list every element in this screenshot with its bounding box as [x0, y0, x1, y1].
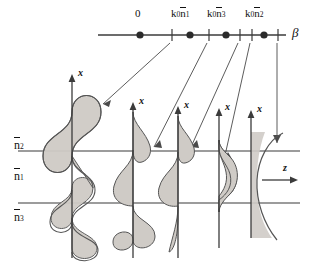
profile-3-tail-sub [169, 206, 178, 252]
profile-5-axis-arrowhead [248, 110, 255, 118]
beta-dot-k0n2 [260, 31, 267, 38]
layer-label-cover: n2 [14, 139, 24, 151]
profile-1-axis-label: x [78, 68, 83, 78]
profile-5-fill [251, 132, 272, 238]
z-axis-arrow-group [262, 177, 298, 184]
profile-1-axis-arrowhead [69, 74, 76, 82]
layer-label-substrate: n3 [14, 211, 24, 223]
leader-arrow-p1 [103, 100, 111, 107]
mode-profile-4 [216, 108, 238, 248]
profile-4-axis-arrowhead [216, 108, 223, 116]
layer-label-guide: n1 [14, 170, 24, 182]
profile-2-lobe-sub-b [113, 232, 133, 250]
beta-label-k0n1: k0n1 [171, 8, 190, 19]
profile-3-axis-arrowhead [175, 106, 182, 114]
figure-canvas: 0 k0n1 k0n3 k0n2 β n2 n1 n3 x x x x x z [0, 0, 311, 276]
beta-axis-group [98, 29, 286, 41]
beta-label-k0n2: k0n2 [245, 8, 264, 19]
profile-3-lobe-guide [158, 152, 178, 206]
profile-5-axis-label: x [257, 104, 262, 114]
diagram-svg [0, 0, 311, 276]
mode-profile-2 [113, 102, 155, 258]
profile-1-lobe-c [72, 218, 97, 259]
beta-dot-zero [136, 31, 143, 38]
beta-axis-label: β [292, 26, 298, 39]
profile-4-axis-label: x [225, 102, 230, 112]
profile-2-lobe-guide [113, 150, 133, 206]
profile-2-lobe-top [133, 112, 151, 162]
z-axis-label: z [283, 163, 287, 173]
mode-profile-5 [248, 110, 283, 240]
mode-profile-1 [43, 74, 101, 261]
beta-label-zero: 0 [135, 8, 141, 19]
beta-dot-k0n3 [222, 31, 229, 38]
beta-label-k0n3: k0n3 [207, 8, 226, 19]
leader-line-to-p1 [103, 43, 170, 104]
profile-3-lobe-top [178, 116, 194, 163]
mode-profile-3 [158, 106, 194, 258]
profile-2-axis-arrowhead [130, 102, 137, 110]
leader-line-to-p3 [191, 43, 238, 147]
z-axis-arrowhead [290, 177, 298, 184]
beta-dot-k0n1 [186, 31, 193, 38]
profile-2-lobe-sub-a [133, 206, 155, 248]
profile-3-axis-label: x [184, 100, 189, 110]
profile-2-axis-label: x [139, 96, 144, 106]
